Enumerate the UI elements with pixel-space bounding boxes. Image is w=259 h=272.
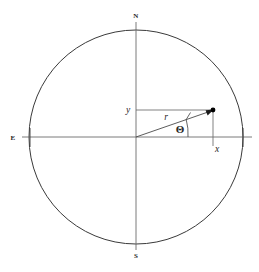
figure-container: N S E y x r Θ (0, 0, 259, 272)
cardinal-label-north: N (133, 12, 138, 20)
terminal-point-dot (211, 108, 216, 113)
cardinal-label-east: E (11, 134, 16, 142)
label-theta-angle: Θ (176, 123, 185, 135)
label-y-component: y (125, 105, 131, 115)
label-r-radius: r (164, 112, 168, 122)
theta-angle-arc (186, 120, 188, 138)
label-x-component: x (214, 144, 220, 154)
radius-vector-line (136, 111, 211, 137)
polar-coordinate-diagram: N S E y x r Θ (0, 0, 259, 272)
cardinal-label-south: S (134, 252, 138, 260)
